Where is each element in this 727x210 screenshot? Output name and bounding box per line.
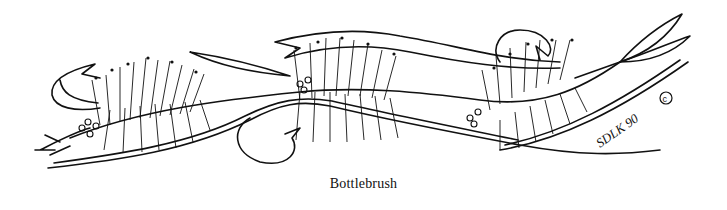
leaf-left <box>35 128 90 155</box>
ribbon-mid-curl <box>238 118 300 163</box>
illustration-caption: Bottlebrush <box>0 176 727 192</box>
svg-text:c: c <box>663 94 668 104</box>
bottlebrush-flower-left <box>92 58 210 153</box>
bottlebrush-illustration: SDLK 90 c <box>0 0 727 172</box>
ribbon-upper <box>275 31 560 68</box>
leaf-right-1 <box>620 14 682 62</box>
leaf-right-2 <box>620 36 690 62</box>
ribbon-lower <box>48 103 660 168</box>
